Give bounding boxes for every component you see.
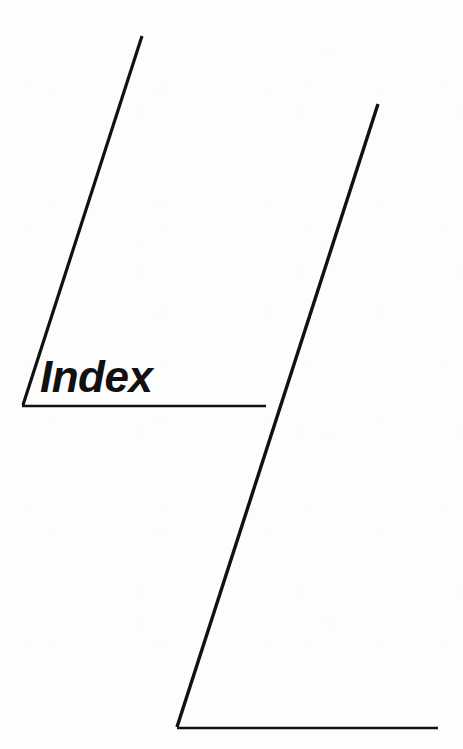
page-title: Index: [40, 355, 152, 399]
index-divider-page: Index: [0, 0, 463, 749]
